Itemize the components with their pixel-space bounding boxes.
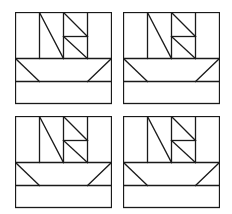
- quilt-block-top-right: [123, 12, 220, 105]
- quilt-block-drawing: [123, 12, 220, 105]
- quilt-block-top-left: [15, 12, 112, 105]
- quilt-block-drawing: [15, 12, 112, 105]
- quilt-block-bottom-left: [15, 116, 112, 209]
- quilt-diagram-grid: [0, 0, 232, 214]
- quilt-block-drawing: [15, 116, 112, 209]
- quilt-block-bottom-right: [123, 116, 220, 209]
- quilt-block-drawing: [123, 116, 220, 209]
